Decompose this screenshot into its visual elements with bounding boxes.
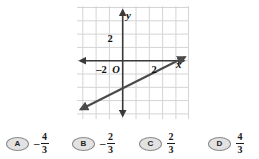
choice-badge-b: B: [72, 137, 95, 151]
choice-b-denominator: 3: [108, 145, 113, 156]
choice-c-numerator: 2: [169, 132, 174, 143]
choice-value-a: – 4 3: [34, 132, 49, 155]
y-tick-label-2: 2: [107, 33, 112, 44]
choice-value-b: – 2 3: [100, 132, 115, 155]
choice-badge-c: C: [139, 137, 162, 151]
choice-a-fraction: 4 3: [41, 132, 49, 155]
choice-b-fraction: 2 3: [107, 132, 115, 155]
answer-choices-row: A – 4 3 B – 2 3 C 2 3: [0, 128, 259, 159]
coordinate-graph-svg: y x 2 –2 O 2: [77, 6, 189, 119]
choice-c-fraction: 2 3: [167, 132, 175, 155]
choice-d-fraction: 4 3: [236, 132, 244, 155]
x-tick-label-2: 2: [151, 64, 156, 75]
choice-badge-a: A: [6, 137, 29, 151]
choice-a-denominator: 3: [42, 145, 47, 156]
x-tick-label-negative-2: –2: [95, 64, 107, 75]
answer-choice-a[interactable]: A – 4 3: [6, 128, 49, 159]
choice-d-numerator: 4: [238, 132, 243, 143]
choice-d-denominator: 3: [238, 145, 243, 156]
choice-a-numerator: 4: [42, 132, 47, 143]
answer-choice-b[interactable]: B – 2 3: [72, 128, 115, 159]
choice-value-c: 2 3: [167, 132, 175, 155]
coordinate-graph-figure: y x 2 –2 O 2: [77, 6, 189, 119]
choice-badge-d: D: [208, 137, 231, 151]
answer-choice-c[interactable]: C 2 3: [139, 128, 175, 159]
x-axis-label: x: [175, 58, 182, 70]
choice-value-d: 4 3: [236, 132, 244, 155]
choice-c-denominator: 3: [169, 145, 174, 156]
choice-b-numerator: 2: [108, 132, 113, 143]
choice-b-sign: –: [100, 138, 106, 149]
answer-choice-d[interactable]: D 4 3: [208, 128, 244, 159]
origin-label: O: [112, 64, 120, 75]
choice-a-sign: –: [34, 138, 40, 149]
y-axis-label: y: [124, 9, 131, 21]
